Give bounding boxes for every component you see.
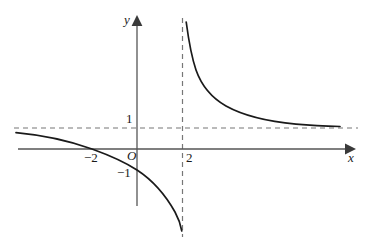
coordinate-plot xyxy=(0,0,366,245)
origin-label: O xyxy=(127,148,136,164)
x-axis-label: x xyxy=(348,150,354,166)
y-tick-label-1: 1 xyxy=(126,111,133,127)
y-tick-label-minus1: −1 xyxy=(117,165,131,181)
x-tick-label-2: 2 xyxy=(186,150,193,166)
curve-right-branch xyxy=(186,22,340,127)
y-axis-label: y xyxy=(124,12,130,28)
x-tick-label-minus2: −2 xyxy=(84,150,98,166)
curve-left-branch xyxy=(16,133,182,231)
y-axis-arrow-icon xyxy=(132,15,143,26)
graph-figure: y x O −2 2 1 −1 xyxy=(0,0,366,245)
